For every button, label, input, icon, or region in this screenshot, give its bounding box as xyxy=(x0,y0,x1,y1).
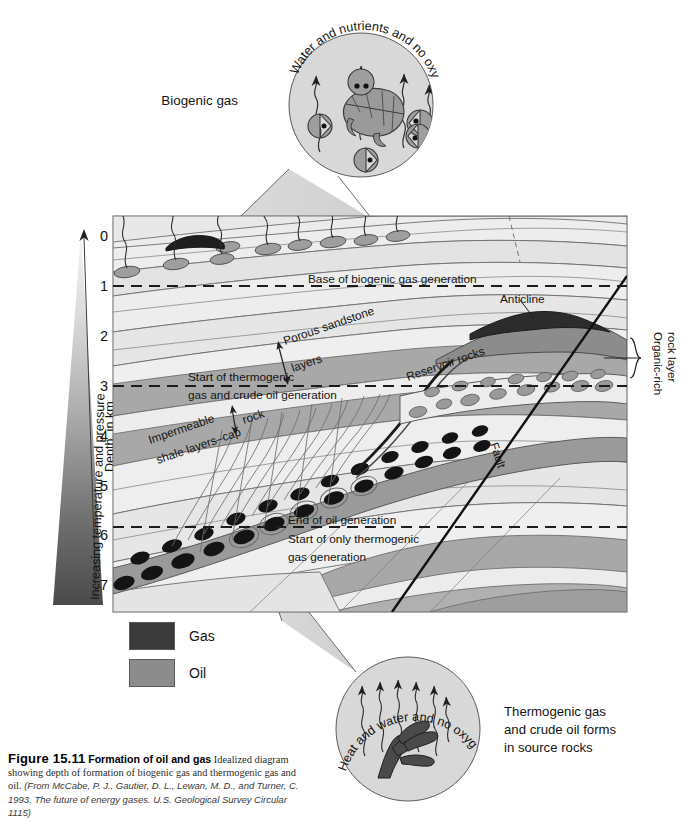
biogenic-gas-label: Biogenic gas xyxy=(161,93,238,108)
label-start-thermogenic-1: Start of thermogenic xyxy=(188,370,294,384)
depth-tick-4: 4 xyxy=(100,428,108,444)
depth-tick-5: 5 xyxy=(100,478,108,494)
figure-number: Figure 15.11 xyxy=(8,751,86,766)
legend-item-gas: Gas xyxy=(129,622,215,650)
figure-lead: Idealized xyxy=(214,754,252,765)
figure-source: (From McCabe, P. J., Gautier, D. L., Lew… xyxy=(8,780,298,817)
label-anticline: Anticline xyxy=(500,292,545,306)
organic-rich-label-line2: rock layer xyxy=(666,332,679,382)
thermogenic-label-line2: and crude oil forms xyxy=(504,722,617,737)
legend-swatch-oil xyxy=(129,659,175,687)
thermogenic-label-line3: in source rocks xyxy=(504,740,593,755)
depth-tick-7: 7 xyxy=(100,577,108,593)
biogenic-gas-callout: Water and nutrients and no oxygen Biogen… xyxy=(0,0,443,177)
label-start-thermogenic-2: gas and crude oil generation xyxy=(188,388,337,402)
figure-title: Formation of oil and gas xyxy=(88,753,211,765)
organic-rich-label-line1: Organic-rich xyxy=(652,332,665,395)
legend-swatch-gas xyxy=(129,622,175,650)
label-base-biogenic: Base of biogenic gas generation xyxy=(308,272,477,286)
label-start-only-thermogenic-2: gas generation xyxy=(288,550,366,564)
figure-oil-gas-formation: Water and nutrients and no oxygen Biogen… xyxy=(0,0,698,837)
depth-tick-1: 1 xyxy=(100,278,108,294)
depth-tick-3: 3 xyxy=(100,378,108,394)
depth-tick-2: 2 xyxy=(100,328,108,344)
thermogenic-label-line1: Thermogenic gas xyxy=(504,704,606,719)
legend-label-gas: Gas xyxy=(189,628,215,644)
legend-label-oil: Oil xyxy=(189,665,206,681)
legend: Gas Oil xyxy=(129,622,215,696)
legend-item-oil: Oil xyxy=(129,659,215,687)
depth-tick-6: 6 xyxy=(100,527,108,543)
label-end-oil: End of oil generation xyxy=(288,513,396,527)
depth-tick-0: 0 xyxy=(100,228,108,244)
figure-caption: Figure 15.11 Formation of oil and gas Id… xyxy=(8,752,308,819)
label-start-only-thermogenic-1: Start of only thermogenic xyxy=(288,532,419,546)
